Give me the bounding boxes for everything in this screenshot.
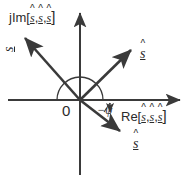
vector-upper-right-label: ^s [140, 47, 145, 61]
angle-label: −ψ [97, 104, 113, 116]
real-axis-label: Re[^s,^s,^s] [121, 108, 167, 123]
hat-icon: ^ [141, 103, 146, 113]
vector-lower-right-label: ^s [133, 137, 138, 151]
vector-upper-left-symbol: ^s [2, 47, 16, 52]
imaginary-axis-label: jIm[^s,^s,^s] [9, 9, 55, 24]
hat-icon: ^ [30, 4, 35, 14]
imaginary-axis-suffix: ] [51, 8, 55, 25]
real-var-1: ^s [141, 111, 146, 123]
real-var-3: ^s [158, 111, 163, 123]
hat-icon: ^ [38, 4, 43, 14]
phasor-diagram-figure: jIm[^s,^s,^s] Re[^s,^s,^s] ^s ^s ^s 0 −ψ [0, 0, 190, 179]
imaginary-var-3: ^s [47, 12, 52, 24]
real-axis-prefix: Re[ [121, 109, 141, 124]
imaginary-var-2: ^s [38, 12, 43, 24]
real-var-2: ^s [150, 111, 155, 123]
real-axis-suffix: ] [163, 107, 167, 124]
hat-icon: ^ [133, 129, 138, 139]
vector-upper-left [25, 38, 80, 100]
diagram-canvas [0, 0, 190, 179]
hat-icon: ^ [140, 39, 145, 49]
vector-upper-left-label: ^s [2, 47, 16, 52]
origin-label: 0 [62, 103, 70, 118]
hat-icon: ^ [47, 4, 52, 14]
hat-icon: ^ [150, 103, 155, 113]
hat-icon: ^ [0, 47, 4, 52]
hat-icon: ^ [158, 103, 163, 113]
imaginary-var-1: ^s [30, 12, 35, 24]
vector-upper-right-symbol: ^s [140, 47, 145, 61]
imaginary-axis-prefix: jIm[ [9, 10, 30, 25]
vector-lower-right-symbol: ^s [133, 137, 138, 151]
vector-upper-right [80, 50, 131, 100]
